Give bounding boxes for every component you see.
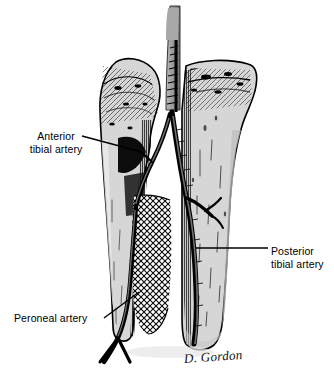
label-peroneal-artery: Peroneal artery bbox=[14, 312, 110, 325]
popliteal-artery bbox=[166, 6, 180, 112]
label-posterior-line1: Posterior bbox=[271, 245, 333, 258]
illustration-page: Anterior tibial artery Posterior tibial … bbox=[0, 0, 334, 377]
label-posterior-line2: tibial artery bbox=[271, 258, 333, 271]
tibia bbox=[182, 60, 257, 352]
label-anterior-line2: tibial artery bbox=[14, 143, 98, 156]
label-peroneal-line1: Peroneal artery bbox=[14, 312, 110, 325]
label-anterior-tibial-artery: Anterior tibial artery bbox=[14, 130, 98, 155]
label-anterior-line1: Anterior bbox=[14, 130, 98, 143]
label-posterior-tibial-artery: Posterior tibial artery bbox=[271, 245, 333, 270]
